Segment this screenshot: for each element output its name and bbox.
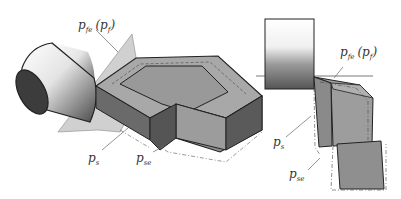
right-view: pfe(pf) ps pse bbox=[256, 19, 386, 190]
label-pse-right: pse bbox=[289, 167, 304, 183]
leader-line-pse-right bbox=[308, 158, 320, 170]
label-pfe-right: pfe(pf) bbox=[340, 45, 377, 61]
label-ps-right: ps bbox=[273, 135, 285, 151]
label-pse-left: pse bbox=[136, 151, 151, 167]
tool-body-right bbox=[314, 77, 386, 190]
label-ps-left: ps bbox=[88, 151, 100, 167]
tool-angle-diagram: pfe(pf) ps pse pfe(pf) bbox=[0, 0, 401, 199]
workpiece-cylinder bbox=[9, 42, 96, 122]
leader-line-ps-right bbox=[286, 116, 311, 137]
left-view: pfe(pf) ps pse bbox=[9, 18, 262, 167]
label-pfe-left: pfe(pf) bbox=[78, 18, 115, 34]
workpiece-section bbox=[265, 19, 314, 89]
tool-body bbox=[96, 56, 262, 162]
